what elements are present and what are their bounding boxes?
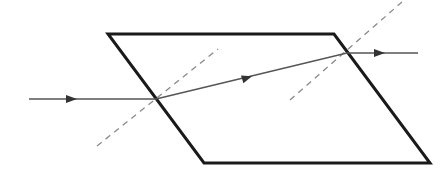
normal-line-entry (97, 49, 218, 146)
refracted-ray-arrow-icon (241, 76, 252, 84)
refraction-diagram (0, 0, 447, 180)
incident-ray-arrow-icon (66, 95, 77, 103)
emergent-ray-arrow-icon (374, 49, 385, 57)
